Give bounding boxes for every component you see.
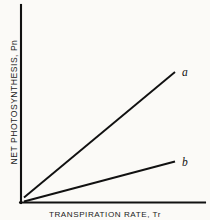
series-line-a [24, 72, 175, 198]
series-label-b: b [182, 156, 188, 168]
series-label-a: a [182, 66, 188, 78]
x-axis-title: TRANSPIRATION RATE, Tr [0, 210, 210, 219]
y-axis-title: NET PHOTOSYNTHESIS, Pn [9, 14, 19, 190]
plot-area: a b [0, 0, 210, 220]
figure-container: a b NET PHOTOSYNTHESIS, Pn TRANSPIRATION… [0, 0, 210, 220]
series-line-b [24, 162, 175, 202]
